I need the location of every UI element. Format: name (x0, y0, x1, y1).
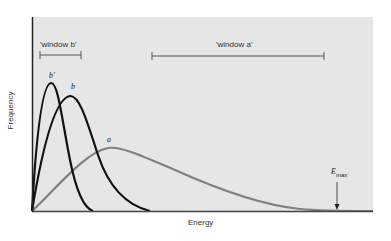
emax-label: Emax (331, 167, 347, 178)
plot-svg (0, 0, 391, 241)
window-a-label: 'window a' (216, 40, 252, 49)
x-axis-label: Energy (188, 218, 213, 227)
energy-distribution-diagram: 'window b' 'window a' b' b a Emax Freque… (0, 0, 391, 241)
curve-a-label: a (107, 135, 111, 144)
emax-sub: max (336, 172, 347, 178)
curve-b-prime-label: b' (49, 71, 55, 80)
window-b-label: 'window b' (40, 40, 76, 49)
y-axis-label: Frequency (6, 92, 15, 130)
curve-b-label: b (71, 82, 75, 91)
